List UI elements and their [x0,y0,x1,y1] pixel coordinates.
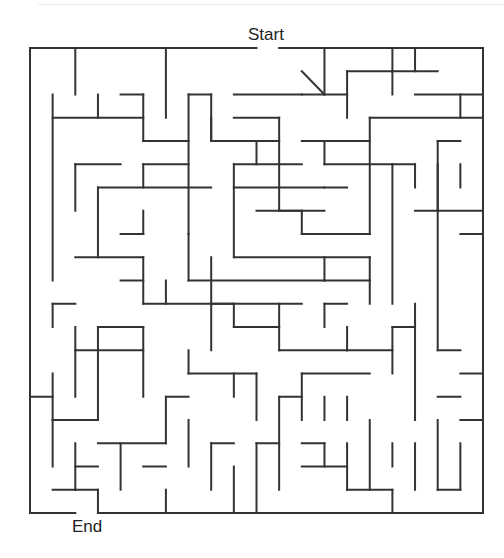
maze-wall [302,71,325,94]
maze-grid [0,0,504,558]
